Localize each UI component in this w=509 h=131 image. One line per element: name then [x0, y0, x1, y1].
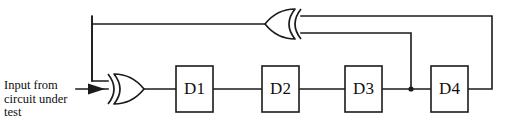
flipflop-d1-label: D1 [184, 79, 205, 98]
xor-gate-feedback-body [265, 9, 295, 39]
flipflop-d3-label: D3 [353, 79, 374, 98]
junction-dot-d3-tap [408, 86, 413, 91]
flipflop-d4-label: D4 [439, 79, 460, 98]
xor-gate-feedback-arc [295, 9, 301, 39]
flipflop-d3[interactable]: D3 [345, 66, 382, 112]
circuit-schematic-canvas: D1 D2 D3 D4 [0, 0, 509, 131]
xor-gate-input [108, 74, 144, 104]
flipflop-d2[interactable]: D2 [262, 66, 299, 112]
circuit-diagram: D1 D2 D3 D4 Input from circuit under tes… [0, 0, 509, 131]
xor-gate-input-body [114, 74, 144, 104]
flipflop-d1[interactable]: D1 [176, 66, 213, 112]
xor-gate-input-arc [108, 74, 114, 104]
flipflop-d2-label: D2 [270, 79, 291, 98]
flipflop-d4[interactable]: D4 [431, 66, 468, 112]
input-arrow-icon [88, 84, 105, 95]
xor-gate-feedback [265, 9, 301, 39]
input-source-caption: Input from circuit under test [4, 79, 76, 120]
